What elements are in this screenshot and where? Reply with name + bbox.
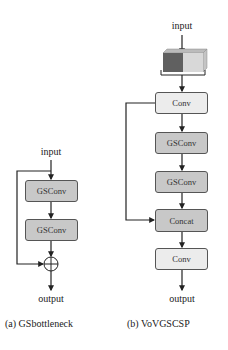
concat-block-b: Concat xyxy=(155,209,208,232)
gsconv-block-a2: GSConv xyxy=(25,219,78,241)
conv-block-b2: Conv xyxy=(155,248,208,270)
input-label-a: input xyxy=(36,146,66,157)
caption-a: (a) GSbottleneck xyxy=(5,318,73,329)
conv-block-b1: Conv xyxy=(155,92,208,114)
output-label-a: output xyxy=(31,293,71,304)
input-label-b: input xyxy=(167,20,197,31)
gsconv-block-b1: GSConv xyxy=(155,132,208,154)
output-label-b: output xyxy=(162,293,202,304)
gsconv-block-a1: GSConv xyxy=(25,180,78,202)
gsconv-block-b2: GSConv xyxy=(155,171,208,193)
caption-b: (b) VoVGSCSP xyxy=(127,318,190,329)
